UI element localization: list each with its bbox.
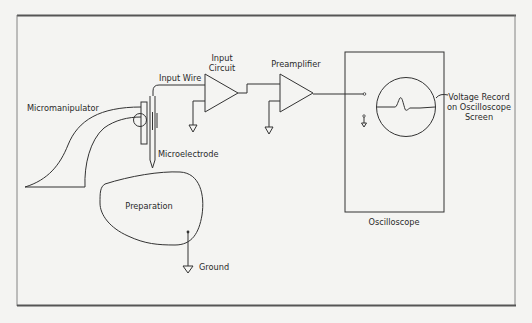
preamplifier-triangle: [280, 74, 313, 112]
oscilloscope: Oscilloscope: [345, 52, 444, 227]
voltage-record-annotation: Voltage Record on Oscilloscope Screen: [436, 92, 511, 122]
preamplifier-label: Preamplifier: [271, 59, 321, 69]
input-wire-label: Input Wire: [159, 73, 201, 83]
preparation-label: Preparation: [125, 201, 172, 211]
micromanipulator-knob: [134, 114, 147, 127]
voltage-record-label-line2: on Oscilloscope: [447, 102, 511, 112]
micromanipulator-label: Micromanipulator: [27, 103, 99, 113]
input-circuit-label-line1: Input: [211, 53, 233, 63]
ground-label: Ground: [199, 262, 229, 272]
preamplifier: Preamplifier: [265, 59, 321, 134]
ground-symbol-icon: [183, 266, 193, 273]
voltage-trace: [377, 98, 435, 111]
recording-setup-diagram: Micromanipulator Microelectrode Input Wi…: [0, 0, 532, 323]
input-circuit-triangle: [205, 74, 238, 112]
oscilloscope-input-wire: [313, 93, 366, 96]
figure-frame: [17, 15, 516, 306]
preparation: Preparation Ground: [100, 172, 229, 273]
microelectrode: Microelectrode: [150, 96, 219, 168]
micromanipulator: Micromanipulator: [25, 102, 147, 187]
callout-leader: [436, 94, 448, 98]
voltage-record-label-line1: Voltage Record: [448, 92, 510, 102]
oscilloscope-body: [345, 52, 444, 212]
microelectrode-label: Microelectrode: [158, 149, 219, 159]
input-wire: Input Wire: [153, 73, 205, 96]
ground-terminal-icon: [363, 115, 365, 117]
ground-symbol-icon: [189, 125, 197, 132]
input-circuit-label-line2: Circuit: [209, 63, 236, 73]
input-terminal-icon: [363, 93, 366, 96]
micromanipulator-arm: [25, 107, 141, 187]
interstage-wire: [238, 84, 280, 93]
voltage-record-label-line3: Screen: [465, 112, 493, 122]
ground-symbol-icon: [265, 127, 273, 134]
oscilloscope-label: Oscilloscope: [368, 217, 419, 227]
input-circuit: Input Circuit: [189, 53, 238, 132]
ground-symbol-icon: [362, 123, 367, 127]
